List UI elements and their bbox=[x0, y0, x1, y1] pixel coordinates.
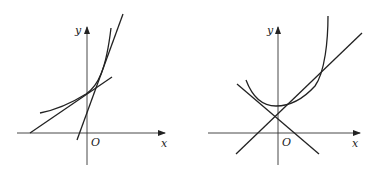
right-curve bbox=[246, 16, 328, 106]
left-x-label: x bbox=[161, 137, 168, 150]
left-y-label: y bbox=[74, 24, 82, 37]
left-graph: x y O bbox=[17, 14, 168, 165]
left-curve bbox=[40, 28, 111, 113]
right-x-label: x bbox=[352, 137, 359, 150]
right-graph: x y O bbox=[208, 16, 362, 165]
right-origin-label: O bbox=[282, 136, 291, 149]
right-y-label: y bbox=[266, 24, 274, 37]
left-steep-line bbox=[77, 14, 123, 140]
right-increasing-line bbox=[236, 33, 362, 154]
figure-canvas: x y O x y O bbox=[0, 0, 370, 175]
left-shallow-line bbox=[30, 77, 112, 133]
left-origin-label: O bbox=[91, 136, 100, 149]
